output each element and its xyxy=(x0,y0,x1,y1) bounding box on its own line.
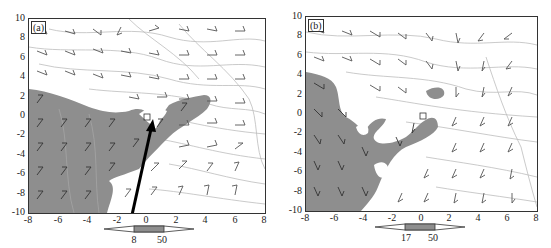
plot-area-b xyxy=(305,16,538,212)
colorbar-label-high: 50 xyxy=(152,235,172,245)
x-tick: -8 xyxy=(295,213,315,223)
x-tick: -4 xyxy=(353,213,373,223)
y-tick: 2 xyxy=(5,91,25,101)
y-tick: -8 xyxy=(282,186,302,196)
x-tick: 6 xyxy=(225,215,245,225)
x-tick: 4 xyxy=(195,215,215,225)
y-tick: 10 xyxy=(5,13,25,23)
y-tick: 10 xyxy=(282,11,302,21)
y-tick: 0 xyxy=(5,110,25,120)
x-tick: -4 xyxy=(77,215,97,225)
y-tick: -4 xyxy=(5,149,25,159)
y-tick: -6 xyxy=(282,166,302,176)
x-tick: 8 xyxy=(254,215,274,225)
center-marker-b xyxy=(420,113,426,119)
panel-label-a: (a) xyxy=(31,21,46,34)
colorbar-label-low: 17 xyxy=(396,233,416,243)
y-tick: -4 xyxy=(282,147,302,157)
y-tick: 8 xyxy=(5,32,25,42)
x-tick: 4 xyxy=(468,213,488,223)
x-tick: -6 xyxy=(324,213,344,223)
y-tick: 4 xyxy=(282,69,302,79)
y-tick: 6 xyxy=(5,52,25,62)
colorbar-label-low: 8 xyxy=(124,235,144,245)
x-tick: 8 xyxy=(526,213,546,223)
y-tick: -8 xyxy=(5,188,25,198)
y-tick: -2 xyxy=(282,127,302,137)
colorbar-b xyxy=(375,221,465,233)
y-tick: -2 xyxy=(5,129,25,139)
panel-a: (a) 10 8 6 4 2 0 -2 -4 -6 -8 -10 -8 -6 -… xyxy=(0,0,275,248)
x-tick: -8 xyxy=(18,215,38,225)
y-tick: 4 xyxy=(5,71,25,81)
plot-area-a xyxy=(28,18,266,214)
y-tick: 0 xyxy=(282,108,302,118)
x-tick: 6 xyxy=(497,213,517,223)
y-tick: 6 xyxy=(282,50,302,60)
shaded-region-b xyxy=(306,72,438,211)
y-tick: -6 xyxy=(5,168,25,178)
panel-b: (b) 10 8 6 4 2 0 -2 -4 -6 -8 -10 -8 -6 -… xyxy=(275,0,551,248)
y-tick: 2 xyxy=(282,89,302,99)
x-tick: -6 xyxy=(48,215,68,225)
panel-label-b: (b) xyxy=(308,19,324,32)
y-tick: 8 xyxy=(282,30,302,40)
field-plot-a xyxy=(29,19,265,213)
colorbar-label-high: 50 xyxy=(423,233,443,243)
field-plot-b xyxy=(306,17,537,211)
colorbar-a xyxy=(104,223,194,235)
